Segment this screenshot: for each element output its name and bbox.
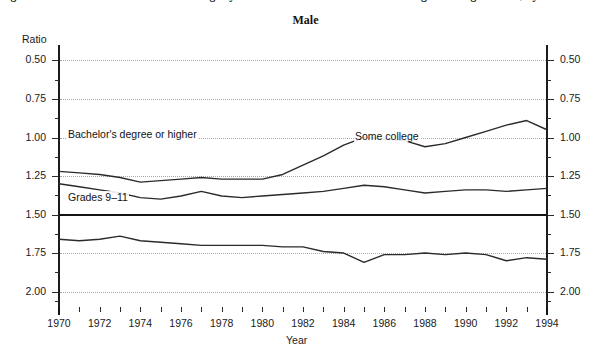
series-line <box>59 236 547 262</box>
y-tick-minor <box>547 118 551 119</box>
series-annotation-some-college: Some college <box>354 130 420 142</box>
x-tick <box>222 307 223 312</box>
y-tick-major <box>547 138 554 139</box>
y-tick-major <box>52 99 59 100</box>
chart-title: Male <box>0 13 611 28</box>
x-tick-label: 1982 <box>283 317 323 329</box>
y-tick-minor <box>547 301 551 302</box>
y-tick-major <box>52 60 59 61</box>
x-tick <box>242 307 243 312</box>
y-tick-minor <box>547 234 551 235</box>
y-axis-label: Ratio <box>22 33 47 45</box>
x-tick <box>323 307 324 312</box>
y-tick-label-right: 2.00 <box>560 285 594 297</box>
y-tick-major <box>547 99 554 100</box>
y-tick-major <box>547 253 554 254</box>
plot-area: 2.002.001.751.751.501.501.251.251.001.00… <box>59 45 547 307</box>
y-tick-label-left: 1.00 <box>12 131 46 143</box>
x-tick <box>303 307 304 312</box>
y-tick-major <box>52 176 59 177</box>
y-tick-major <box>52 138 59 139</box>
y-tick-minor <box>547 157 551 158</box>
x-tick <box>79 307 80 312</box>
y-tick-minor <box>547 80 551 81</box>
x-tick <box>283 307 284 312</box>
y-tick-label-left: 0.50 <box>12 53 46 65</box>
x-tick <box>344 307 345 312</box>
x-tick-label: 1992 <box>486 317 526 329</box>
x-tick-label: 1978 <box>202 317 242 329</box>
x-tick-label: 1990 <box>446 317 486 329</box>
y-tick-label-right: 0.50 <box>560 53 594 65</box>
y-tick-label-left: 0.75 <box>12 92 46 104</box>
x-tick <box>262 307 263 312</box>
x-tick-label: 1986 <box>364 317 404 329</box>
series-lines <box>59 45 547 307</box>
y-tick-label-right: 1.25 <box>560 169 594 181</box>
y-tick-major <box>547 292 554 293</box>
x-tick <box>58 307 60 315</box>
x-tick <box>161 307 162 312</box>
y-tick-label-left: 1.50 <box>12 208 46 220</box>
y-tick-major <box>547 60 554 61</box>
x-tick-label: 1974 <box>120 317 160 329</box>
x-tick <box>140 307 141 312</box>
x-tick <box>466 307 467 312</box>
x-tick <box>120 307 121 312</box>
x-tick <box>425 307 426 312</box>
x-tick <box>546 307 548 315</box>
x-tick <box>486 307 487 312</box>
x-tick-label: 1988 <box>405 317 445 329</box>
x-tick <box>201 307 202 312</box>
y-tick-label-right: 0.75 <box>560 92 594 104</box>
x-tick-label: 1980 <box>242 317 282 329</box>
series-line <box>59 184 547 199</box>
series-annotation-grades: Grades 9–11 <box>67 191 129 203</box>
y-tick-major <box>547 215 554 216</box>
y-tick-major <box>547 176 554 177</box>
x-tick-label: 1994 <box>527 317 567 329</box>
y-tick-major <box>52 253 59 254</box>
series-annotation-bachelors: Bachelor's degree or higher <box>67 128 198 140</box>
x-axis-label: Year <box>286 334 307 346</box>
y-tick-label-right: 1.75 <box>560 246 594 258</box>
x-tick <box>527 307 528 312</box>
x-tick <box>384 307 385 312</box>
x-tick <box>181 307 182 312</box>
y-tick-label-right: 1.00 <box>560 131 594 143</box>
y-tick-major <box>52 215 59 216</box>
x-tick <box>364 307 365 312</box>
y-tick-label-left: 1.25 <box>12 169 46 181</box>
y-tick-major <box>52 292 59 293</box>
y-tick-minor <box>547 272 551 273</box>
x-tick <box>445 307 446 312</box>
x-tick-label: 1976 <box>161 317 201 329</box>
x-tick-label: 1970 <box>39 317 79 329</box>
x-tick <box>405 307 406 312</box>
y-tick-minor <box>547 195 551 196</box>
x-tick-label: 1984 <box>324 317 364 329</box>
x-tick <box>100 307 101 312</box>
clipped-figure-heading: Figure 2.—Ratio of median annual earning… <box>0 0 611 3</box>
y-tick-label-left: 2.00 <box>12 285 46 297</box>
y-tick-label-left: 1.75 <box>12 246 46 258</box>
y-tick-label-right: 1.50 <box>560 208 594 220</box>
x-tick <box>506 307 507 312</box>
x-tick-label: 1972 <box>80 317 120 329</box>
